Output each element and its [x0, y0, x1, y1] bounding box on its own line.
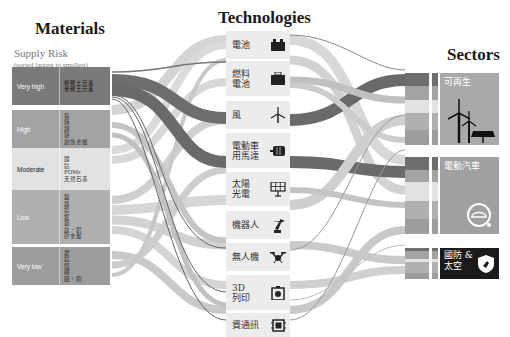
tech-robotics[interactable]: 機器人 [226, 211, 290, 239]
material-very-high[interactable]: Very high 輕稀土元素 重稀土元素 [12, 67, 110, 105]
tech-label: 太陽 光電 [232, 179, 250, 199]
fuel-cell-icon [270, 71, 286, 87]
material-elements: 鋰 鈷 POMs 天然石墨 [59, 148, 110, 190]
material-very-low[interactable]: Very low 鍶 錳 鉬 硼 鐵・銅 [12, 247, 110, 285]
tech-label: 3D 列印 [232, 283, 250, 303]
material-elements: 鎵 鍺 銦 鉍 鉑族金屬 [59, 110, 110, 148]
robot-arm-icon [270, 217, 286, 233]
tech-label: 資通訊 [232, 320, 259, 330]
element-name: 鉑族金屬 [64, 139, 110, 146]
drone-icon [270, 249, 286, 265]
tech-label: 電動車 用馬達 [232, 141, 259, 161]
element-name: 天然石墨 [64, 176, 110, 183]
supply-risk-level: Low [12, 190, 59, 244]
tech-ict[interactable]: 資通訊 [226, 313, 290, 337]
tech-label: 燃料 電池 [232, 69, 250, 89]
supply-risk-level: Moderate [12, 148, 59, 190]
tech-label: 無人機 [232, 252, 259, 262]
sector-renewables[interactable]: 可再生 [440, 73, 499, 145]
wind-turbine-icon [270, 107, 286, 123]
sector-label: 可再生 [444, 77, 471, 88]
sector-label: 電動汽車 [444, 161, 480, 172]
motor-icon [270, 143, 286, 159]
tech-3d-printing[interactable]: 3D 列印 [226, 275, 290, 310]
solar-panel-icon [270, 181, 286, 197]
chip-icon [270, 317, 286, 333]
tech-wind[interactable]: 風 [226, 101, 290, 129]
element-name: 重稀土元素 [64, 86, 110, 93]
renewables-icon [445, 99, 495, 143]
sector-defense-space[interactable]: 國防 & 太空 [440, 248, 499, 279]
material-elements: 鍶 錳 鉬 硼 鐵・銅 [59, 247, 110, 285]
material-elements: 輕稀土元素 重稀土元素 [59, 67, 110, 105]
defense-shield-icon [478, 255, 494, 273]
tech-solar-pv[interactable]: 太陽 光電 [226, 172, 290, 206]
tech-fuel-cell[interactable]: 燃料 電池 [226, 61, 290, 96]
tech-ev-motor[interactable]: 電動車 用馬達 [226, 133, 290, 168]
tech-drones[interactable]: 無人機 [226, 243, 290, 271]
element-name: 鐵・銅 [64, 276, 110, 283]
battery-icon [270, 37, 286, 53]
tech-label: 機器人 [232, 220, 259, 230]
tech-label: 風 [232, 110, 241, 120]
3d-printer-icon [270, 285, 286, 301]
element-name: 矽金屬 [64, 233, 110, 240]
material-moderate[interactable]: Moderate 鋰 鈷 POMs 天然石墨 [12, 148, 110, 190]
tech-battery[interactable]: 電池 [226, 31, 290, 59]
supply-risk-level: High [12, 110, 59, 148]
material-high[interactable]: High 鎵 鍺 銦 鉍 鉑族金屬 [12, 110, 110, 148]
tech-label: 電池 [232, 40, 250, 50]
ev-car-icon [466, 201, 494, 229]
sector-electric-vehicles[interactable]: 電動汽車 [440, 157, 499, 234]
material-elements: 鎳 鉻 鎢 鈮 鉭 鈦・鋁 矽金屬 [59, 190, 110, 244]
material-low[interactable]: Low 鎳 鉻 鎢 鈮 鉭 鈦・鋁 矽金屬 [12, 190, 110, 244]
supply-risk-level: Very high [12, 67, 59, 105]
supply-risk-level: Very low [12, 247, 59, 285]
sector-label: 國防 & 太空 [444, 250, 473, 272]
